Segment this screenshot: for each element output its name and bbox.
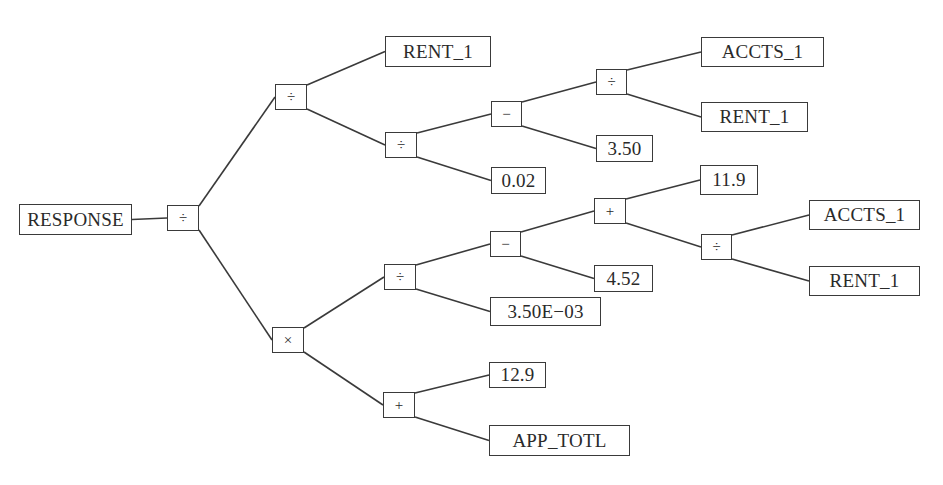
connector-line	[627, 94, 701, 117]
terminal-node: RENT_1	[385, 36, 491, 67]
connector-line	[417, 114, 491, 133]
terminal-node: 3.50	[596, 135, 653, 162]
terminal-node: 4.52	[594, 265, 653, 292]
terminal-node: APP_TOTL	[489, 425, 630, 456]
connector-line	[521, 256, 594, 279]
plus-operator-node: +	[594, 198, 626, 224]
terminal-node: 3.50E−03	[490, 297, 601, 326]
connector-line	[199, 97, 275, 206]
terminal-node: 11.9	[700, 165, 758, 195]
connector-line	[304, 277, 384, 328]
divide-operator-node: ÷	[385, 132, 417, 158]
minus-operator-node: −	[490, 231, 521, 257]
connector-line	[627, 52, 701, 70]
connector-line	[732, 259, 809, 281]
connector-line	[732, 215, 809, 235]
response-node: RESPONSE	[19, 204, 132, 235]
connector-line	[415, 417, 489, 441]
expression-tree-diagram: RESPONSE÷÷RENT_1÷−0.02÷3.50ACCTS_1RENT_1…	[0, 0, 943, 485]
connector-line	[626, 223, 701, 247]
multiply-operator-node: ×	[272, 327, 304, 353]
connector-line	[307, 109, 385, 145]
terminal-node: 12.9	[489, 362, 546, 388]
divide-operator-node: ÷	[384, 264, 416, 290]
connector-line	[417, 157, 491, 181]
connector-line	[522, 82, 596, 102]
connector-line	[626, 180, 700, 199]
connector-line	[522, 126, 596, 149]
connector-line	[416, 244, 490, 265]
connector-line	[304, 352, 383, 405]
divide-operator-node: ÷	[167, 205, 199, 231]
terminal-node: ACCTS_1	[809, 200, 920, 230]
terminal-node: RENT_1	[701, 102, 808, 132]
divide-operator-node: ÷	[701, 234, 732, 260]
connector-line	[307, 52, 385, 86]
divide-operator-node: ÷	[275, 84, 307, 110]
divide-operator-node: ÷	[596, 69, 627, 95]
connector-line	[415, 375, 489, 393]
connector-line	[132, 218, 167, 220]
terminal-node: RENT_1	[809, 266, 920, 296]
connector-line	[521, 211, 594, 232]
connector-line	[199, 230, 272, 340]
plus-operator-node: +	[383, 392, 415, 418]
connector-line	[416, 289, 490, 312]
tree-connectors	[0, 0, 943, 485]
terminal-node: 0.02	[491, 167, 546, 194]
minus-operator-node: −	[491, 101, 522, 127]
terminal-node: ACCTS_1	[701, 37, 824, 67]
